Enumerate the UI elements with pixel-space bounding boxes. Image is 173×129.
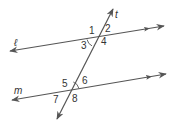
line-label-l: ℓ <box>13 37 18 48</box>
line-label-t: t <box>115 9 119 20</box>
line-l <box>10 26 164 51</box>
line-label-m: m <box>14 85 22 96</box>
angle-label-3: 3 <box>81 40 87 51</box>
angle-label-4: 4 <box>101 36 107 47</box>
angle-3-arc <box>87 40 92 46</box>
angle-label-1: 1 <box>89 25 95 36</box>
angle-label-6: 6 <box>82 75 88 86</box>
angle-label-7: 7 <box>53 94 59 105</box>
transversal-diagram: t ℓ m 1 2 3 4 5 6 7 8 <box>0 0 173 129</box>
line-m <box>12 74 166 100</box>
angle-label-2: 2 <box>105 23 111 34</box>
angle-label-8: 8 <box>72 93 78 104</box>
angle-label-5: 5 <box>62 78 68 89</box>
